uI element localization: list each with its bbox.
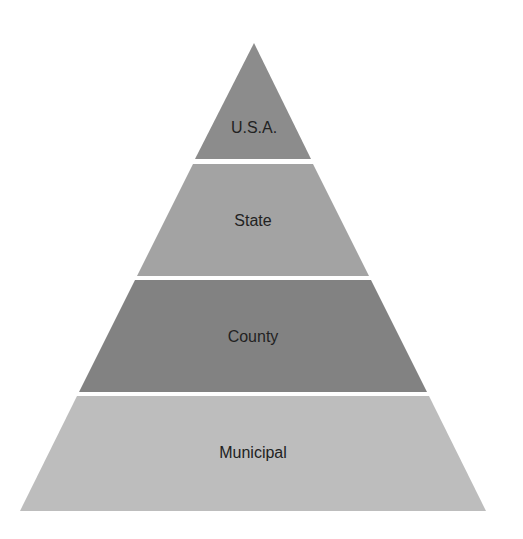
tier-municipal: Municipal [20, 396, 486, 511]
tier-usa: U.S.A. [195, 43, 311, 159]
government-hierarchy-pyramid: U.S.A. State County Municipal [0, 0, 523, 539]
tier-usa-shape [195, 43, 311, 159]
tier-municipal-label: Municipal [219, 444, 287, 461]
tier-county-label: County [228, 328, 279, 345]
tier-state: State [137, 164, 369, 276]
tier-county: County [79, 280, 427, 392]
tier-state-label: State [234, 212, 271, 229]
tier-usa-label: U.S.A. [231, 119, 277, 136]
